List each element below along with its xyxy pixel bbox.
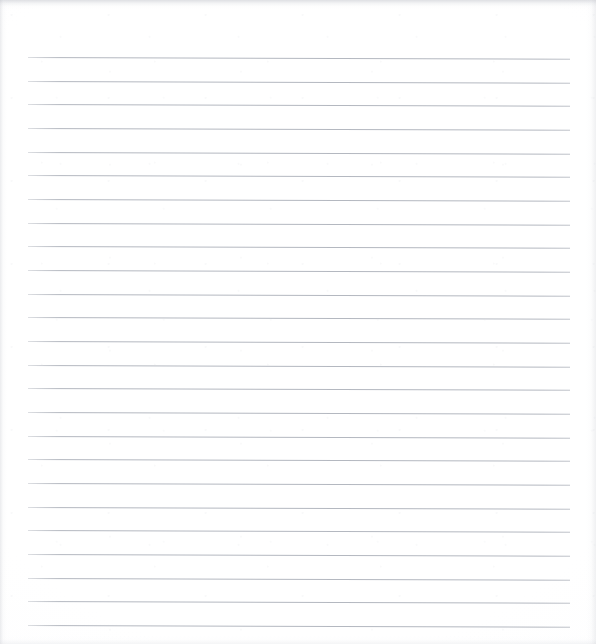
ruled-line (28, 412, 570, 415)
ruled-line (28, 530, 570, 533)
ruled-line (28, 246, 570, 249)
ruled-lines-layer (0, 0, 596, 644)
ruled-line (28, 388, 570, 391)
paper-top-edge-shadow (0, 0, 596, 9)
ruled-line (28, 483, 570, 486)
paper-bottom-edge-shadow (0, 636, 596, 644)
ruled-line (28, 554, 570, 557)
ruled-line (28, 436, 570, 439)
paper-right-edge-shadow (586, 0, 596, 644)
ruled-line (28, 459, 570, 462)
ruled-line (28, 341, 570, 344)
ruled-line (28, 365, 570, 368)
scanned-ruled-paper-page (0, 0, 596, 644)
ruled-line (28, 199, 570, 202)
paper-left-edge-shadow (0, 0, 7, 644)
ruled-line (28, 317, 570, 320)
ruled-line (28, 578, 570, 581)
ruled-line (28, 507, 570, 510)
ruled-line (28, 57, 570, 60)
ruled-line (28, 128, 570, 131)
ruled-line (28, 175, 570, 178)
ruled-line (28, 270, 570, 273)
ruled-line (28, 104, 570, 107)
ruled-line (28, 625, 570, 628)
ruled-line (28, 81, 570, 84)
ruled-line (28, 223, 570, 226)
ruled-line (28, 152, 570, 155)
ruled-line (28, 294, 570, 297)
ruled-line (28, 601, 570, 604)
